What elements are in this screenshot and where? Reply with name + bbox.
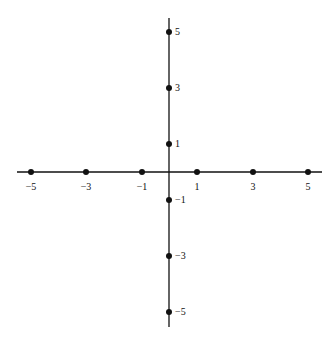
- x-label: −1: [137, 181, 148, 192]
- y-label: 1: [175, 138, 180, 149]
- point-y-1: [166, 141, 172, 147]
- y-label: −1: [175, 194, 186, 205]
- point-x-3: [250, 169, 256, 175]
- y-label: −3: [175, 250, 186, 261]
- x-label: −5: [26, 181, 37, 192]
- x-label: 1: [195, 181, 200, 192]
- point-x-neg3: [83, 169, 89, 175]
- point-x-neg5: [28, 169, 34, 175]
- x-label: 3: [251, 181, 256, 192]
- point-y-3: [166, 85, 172, 91]
- y-label: 3: [175, 82, 180, 93]
- point-x-1: [194, 169, 200, 175]
- coordinate-axes-diagram: −5 −3 −1 1 3 5 5 3 1 −1 −3 −5: [0, 0, 336, 343]
- point-y-5: [166, 29, 172, 35]
- point-y-neg3: [166, 253, 172, 259]
- x-label: −3: [81, 181, 92, 192]
- y-label: −5: [175, 306, 186, 317]
- x-axis-labels: −5 −3 −1 1 3 5: [26, 181, 311, 192]
- point-x-5: [305, 169, 311, 175]
- y-label: 5: [175, 26, 180, 37]
- point-y-neg1: [166, 197, 172, 203]
- x-label: 5: [306, 181, 311, 192]
- point-y-neg5: [166, 309, 172, 315]
- point-x-neg1: [139, 169, 145, 175]
